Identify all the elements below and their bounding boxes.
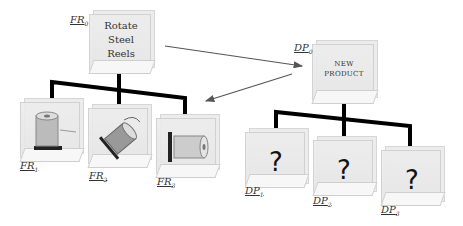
fr2-label: FR2 [89, 170, 107, 183]
fr2-cube [88, 104, 154, 170]
fr3-cube [156, 114, 222, 180]
fr0-text-line-1: Rotate [104, 19, 137, 33]
arrow-fr0-to-dp0 [165, 46, 302, 66]
fr0-text-line-3: Reels [107, 47, 135, 61]
reel-horizontal-icon [166, 128, 214, 168]
dp3-question-mark: ? [405, 165, 419, 195]
dp2-label: DP2 [313, 195, 332, 208]
dp2-cube: ? [313, 136, 379, 202]
dp1-label: DP1 [245, 185, 264, 198]
fr3-label: FR3 [157, 176, 175, 189]
fr0-label: FR0 [70, 14, 88, 27]
dp0-label: DP0 [294, 42, 313, 55]
dp0-text-line-2: PRODUCT [324, 69, 363, 79]
arrow-dp0-to-fr-level [206, 74, 292, 101]
dp2-question-mark: ? [337, 155, 351, 185]
dp0-cube: NEW PRODUCT [312, 40, 378, 106]
fr0-cube: Rotate Steel Reels [89, 10, 155, 76]
dp3-cube: ? [381, 146, 447, 212]
fr1-label: FR1 [20, 160, 38, 173]
reel-upright-icon [30, 110, 80, 154]
dp1-question-mark: ? [269, 147, 283, 177]
dp0-text-line-1: NEW [334, 59, 353, 69]
reel-tilted-icon [96, 112, 146, 162]
fr1-cube [20, 98, 86, 164]
dp3-label: DP3 [381, 204, 400, 217]
fr0-text-line-2: Steel [108, 33, 134, 47]
